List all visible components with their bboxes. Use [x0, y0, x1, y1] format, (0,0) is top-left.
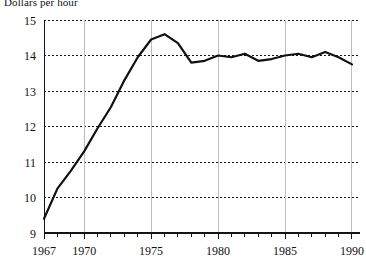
svg-text:10: 10 [24, 191, 36, 205]
svg-text:13: 13 [24, 85, 36, 99]
svg-text:14: 14 [24, 49, 36, 63]
y-axis-tick-labels: 9101112131415 [24, 14, 36, 241]
svg-text:1985: 1985 [273, 244, 297, 258]
x-axis-tick-labels: 196719701975198019851990 [32, 244, 364, 258]
horizontal-gridlines [44, 20, 360, 233]
svg-text:12: 12 [24, 120, 36, 134]
svg-text:15: 15 [24, 14, 36, 28]
axis-ticks [44, 233, 352, 239]
svg-text:11: 11 [24, 156, 36, 170]
svg-text:1975: 1975 [139, 244, 163, 258]
svg-text:1990: 1990 [340, 244, 364, 258]
chart-plot-svg: 9101112131415 196719701975198019851990 [0, 0, 366, 269]
svg-text:1967: 1967 [32, 244, 56, 258]
svg-text:9: 9 [30, 227, 36, 241]
svg-text:1970: 1970 [72, 244, 96, 258]
chart-container: Dollars per hour 9101112131415 196719701… [0, 0, 366, 269]
svg-text:1980: 1980 [206, 244, 230, 258]
